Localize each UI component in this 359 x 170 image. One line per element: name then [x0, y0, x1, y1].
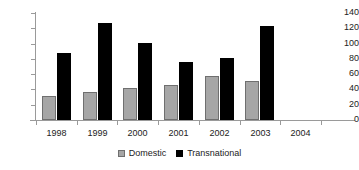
y-tick-mark	[31, 74, 35, 75]
x-tick-label-1999: 1999	[77, 128, 118, 138]
bar-transnational-2001	[179, 62, 193, 120]
x-axis-line	[30, 120, 355, 121]
y-tick-label: 140	[331, 8, 359, 17]
plot-area	[36, 13, 321, 120]
x-tick-mark	[240, 121, 241, 125]
legend-item-transnational: Transnational	[176, 148, 241, 158]
bar-domestic-2001	[164, 85, 178, 120]
bar-domestic-2003	[245, 81, 259, 120]
gray-swatch-icon	[118, 150, 125, 157]
y-tick-label: 100	[331, 39, 359, 48]
y-tick-label: 60	[331, 69, 359, 78]
y-tick-mark	[31, 59, 35, 60]
chart-legend: Domestic Transnational	[0, 148, 359, 158]
y-tick-label: 40	[331, 84, 359, 93]
y-tick-mark	[31, 89, 35, 90]
legend-label-domestic: Domestic	[129, 148, 167, 158]
x-tick-mark	[321, 121, 322, 125]
x-tick-label-1998: 1998	[36, 128, 77, 138]
bar-domestic-1998	[42, 96, 56, 120]
y-tick-label: 80	[331, 54, 359, 63]
x-tick-mark	[280, 121, 281, 125]
x-tick-label-2000: 2000	[117, 128, 158, 138]
x-tick-mark	[158, 121, 159, 125]
legend-item-domestic: Domestic	[118, 148, 167, 158]
x-tick-label-2001: 2001	[158, 128, 199, 138]
bar-domestic-2002	[205, 76, 219, 120]
legend-label-transnational: Transnational	[187, 148, 241, 158]
y-tick-mark	[31, 28, 35, 29]
x-tick-label-2003: 2003	[240, 128, 281, 138]
y-tick-mark	[31, 13, 35, 14]
bar-chart: 020406080100120140 199819992000200120022…	[0, 0, 359, 170]
bar-domestic-1999	[83, 92, 97, 120]
y-tick-label: 0	[331, 115, 359, 124]
black-swatch-icon	[176, 150, 183, 157]
bar-transnational-2003	[260, 26, 274, 120]
x-tick-mark	[36, 121, 37, 125]
x-tick-label-2002: 2002	[199, 128, 240, 138]
bar-domestic-2000	[123, 88, 137, 120]
x-tick-mark	[117, 121, 118, 125]
y-tick-label: 20	[331, 100, 359, 109]
bar-transnational-2000	[138, 43, 152, 120]
x-tick-label-2004: 2004	[280, 128, 321, 138]
y-tick-mark	[31, 105, 35, 106]
y-tick-mark	[31, 44, 35, 45]
bar-transnational-1999	[98, 23, 112, 120]
x-tick-mark	[77, 121, 78, 125]
y-tick-mark	[31, 120, 35, 121]
y-tick-label: 120	[331, 23, 359, 32]
bar-transnational-1998	[57, 53, 71, 120]
x-tick-mark	[199, 121, 200, 125]
bar-transnational-2002	[220, 58, 234, 120]
